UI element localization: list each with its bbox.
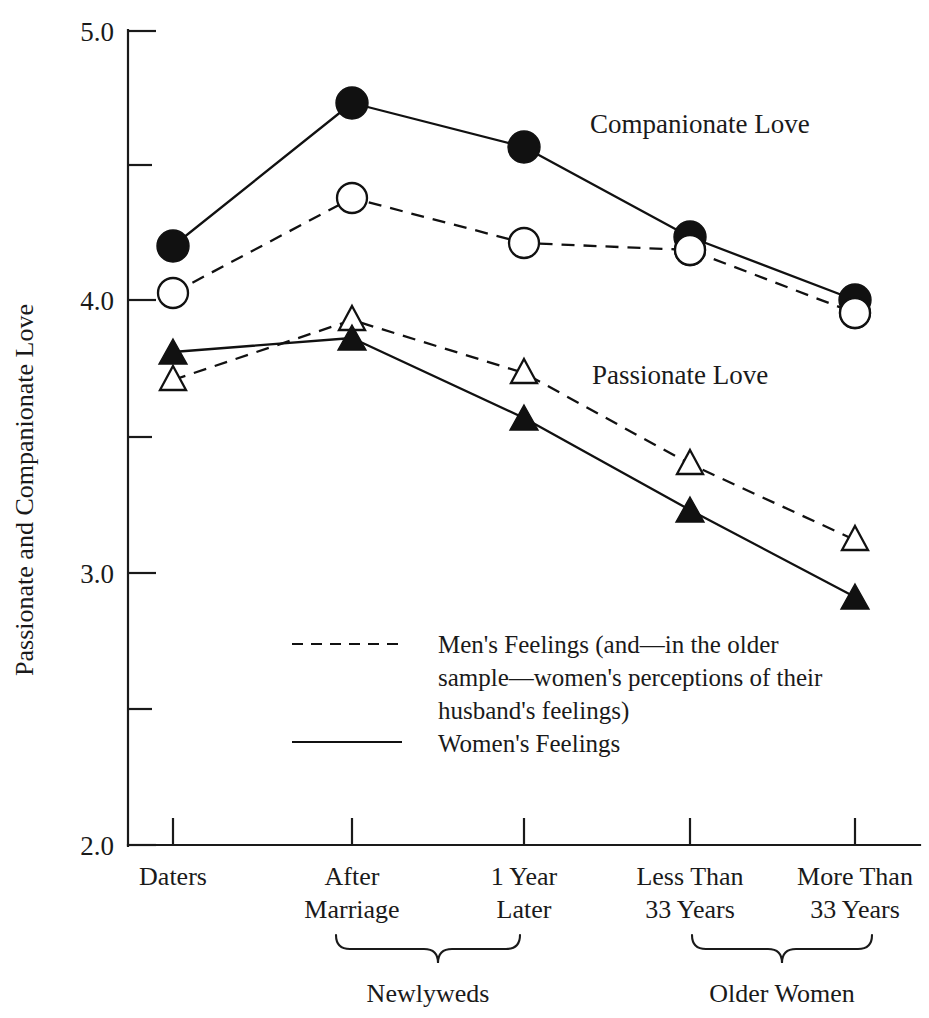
x-label-after-marriage-line1: After (325, 862, 380, 891)
brace-older-women (692, 935, 872, 963)
data-point (675, 235, 705, 265)
markers-companionate-men (158, 183, 870, 328)
group-label-newlyweds: Newlyweds (367, 979, 490, 1008)
data-point (842, 526, 868, 550)
brace-newlyweds (336, 935, 520, 963)
x-label-after-marriage-line2: Marriage (304, 895, 399, 924)
legend: Men's Feelings (and—in the older sample—… (292, 631, 823, 757)
x-label-more-than-33-line2: 33 Years (810, 895, 900, 924)
chart-page: Passionate and Companionate Love 5.0 4.0… (0, 0, 929, 1018)
x-label-1-year-later-line2: Later (497, 895, 552, 924)
markers-companionate-men-overlay (675, 235, 870, 328)
data-point (510, 405, 538, 430)
x-label-1-year-later-line1: 1 Year (491, 862, 558, 891)
group-bracket-newlyweds: Newlyweds (336, 935, 520, 1008)
legend-label-men-line-2: sample—women's perceptions of their (438, 664, 823, 691)
data-point (508, 131, 540, 163)
y-axis-title-text: Passionate and Companionate Love (10, 304, 39, 676)
data-point (336, 87, 368, 119)
x-label-less-than-33-line1: Less Than (636, 862, 743, 891)
group-bracket-older-women: Older Women (692, 935, 872, 1008)
data-point (158, 278, 188, 308)
annotation-companionate-love: Companionate Love (590, 109, 810, 139)
x-label-less-than-33-line2: 33 Years (645, 895, 735, 924)
x-label-daters-line1: Daters (139, 862, 207, 891)
annotation-passionate-love: Passionate Love (592, 360, 768, 390)
group-label-older-women: Older Women (709, 979, 854, 1008)
data-point (676, 497, 704, 522)
legend-label-men-line-1: Men's Feelings (and—in the older (438, 631, 779, 659)
y-tick-label-5: 5.0 (80, 17, 114, 47)
data-point (841, 584, 869, 609)
data-point (677, 450, 703, 474)
data-point (157, 230, 189, 262)
y-tick-label-4: 4.0 (80, 286, 114, 316)
y-axis-title: Passionate and Companionate Love (10, 304, 39, 676)
data-point (840, 298, 870, 328)
data-point (337, 183, 367, 213)
line-chart: Passionate and Companionate Love 5.0 4.0… (0, 0, 929, 1018)
data-point (509, 228, 539, 258)
legend-label-men-line-3: husband's feelings) (438, 697, 629, 725)
x-label-more-than-33-line1: More Than (797, 862, 913, 891)
legend-label-women: Women's Feelings (438, 730, 620, 757)
y-tick-label-3: 3.0 (80, 559, 114, 589)
x-axis-labels: Daters After Marriage 1 Year Later Less … (139, 862, 913, 924)
y-tick-label-2: 2.0 (80, 831, 114, 861)
